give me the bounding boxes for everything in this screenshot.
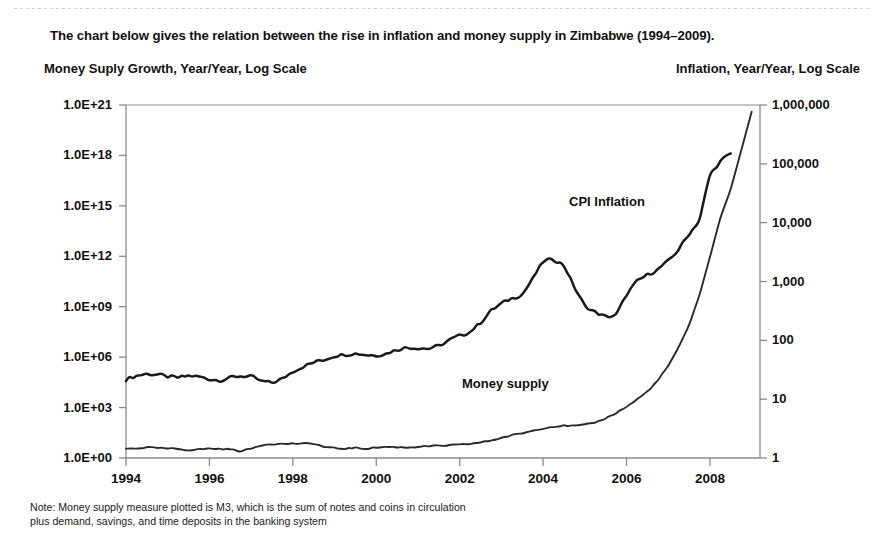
chart-axes (119, 105, 767, 466)
y-axis-right-tick-label: 10 (772, 391, 882, 406)
series-label-money-supply: Money supply (462, 376, 549, 391)
y-axis-left-tick-label: 1.0E+06 (20, 349, 112, 364)
y-axis-left-tick-label: 1.0E+09 (20, 299, 112, 314)
y-axis-right-tick-label: 1,000 (772, 274, 882, 289)
y-axis-right-tick-label: 1 (772, 450, 882, 465)
x-axis-tick-label: 2000 (346, 471, 406, 486)
x-axis-tick-label: 2004 (513, 471, 573, 486)
chart-canvas (0, 0, 886, 538)
x-axis-tick-label: 1994 (96, 471, 156, 486)
x-axis-tick-label: 1998 (263, 471, 323, 486)
series-label-cpi-inflation: CPI Inflation (569, 194, 645, 209)
page-top-rule (14, 8, 872, 9)
page-title: The chart below gives the relation betwe… (50, 28, 860, 43)
x-axis-tick-label: 2006 (597, 471, 657, 486)
y-axis-left-tick-label: 1.0E+00 (20, 450, 112, 465)
y-axis-right-tick-label: 10,000 (772, 215, 882, 230)
y-axis-right-tick-label: 100,000 (772, 156, 882, 171)
footnote-line-1: Note: Money supply measure plotted is M3… (30, 500, 670, 514)
x-axis-tick-label: 2002 (430, 471, 490, 486)
y-axis-left-tick-label: 1.0E+12 (20, 248, 112, 263)
y-axis-right-tick-label: 100 (772, 332, 882, 347)
series-line-cpi-inflation (126, 153, 731, 382)
y-axis-left-tick-label: 1.0E+21 (20, 97, 112, 112)
right-axis-title: Inflation, Year/Year, Log Scale (676, 61, 860, 76)
y-axis-right-tick-label: 1,000,000 (772, 97, 882, 112)
left-axis-title: Money Suply Growth, Year/Year, Log Scale (44, 61, 307, 76)
footnote-line-2: plus demand, savings, and time deposits … (30, 514, 670, 528)
y-axis-left-tick-label: 1.0E+15 (20, 198, 112, 213)
chart-series (126, 112, 752, 452)
series-line-money-supply (126, 112, 752, 452)
chart-footnote: Note: Money supply measure plotted is M3… (30, 500, 670, 528)
y-axis-left-tick-label: 1.0E+03 (20, 400, 112, 415)
y-axis-left-tick-label: 1.0E+18 (20, 147, 112, 162)
x-axis-tick-label: 2008 (680, 471, 740, 486)
x-axis-tick-label: 1996 (179, 471, 239, 486)
